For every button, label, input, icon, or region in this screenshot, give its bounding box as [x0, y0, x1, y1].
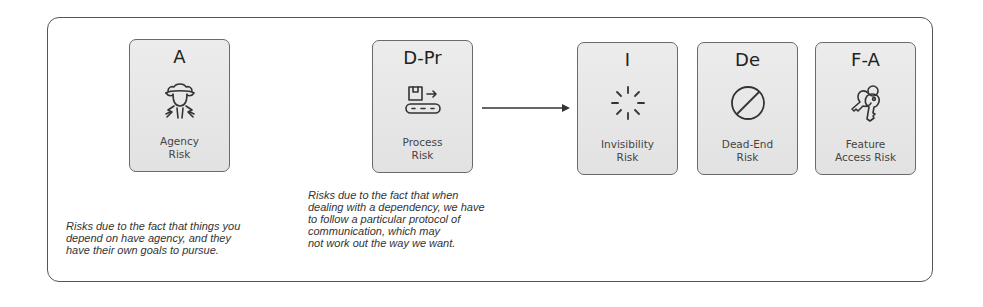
card-label: Process Risk — [373, 136, 472, 162]
conveyor-belt-icon — [399, 77, 447, 125]
prohibited-icon — [724, 79, 772, 127]
card-abbr: F-A — [816, 49, 915, 70]
card-invisibility-risk: I Invisibility Risk — [577, 42, 678, 175]
arrow-connector-icon — [482, 101, 572, 115]
card-abbr: A — [130, 46, 229, 67]
keys-icon — [842, 79, 890, 127]
process-risk-description: Risks due to the fact that when dealing … — [308, 189, 485, 249]
card-feature-access-risk: F-A Feature Access Risk — [815, 42, 916, 175]
card-abbr: De — [698, 49, 797, 70]
card-abbr: I — [578, 49, 677, 70]
card-abbr: D-Pr — [373, 47, 472, 68]
card-label: Invisibility Risk — [578, 138, 677, 164]
card-agency-risk: A Agency Risk — [129, 39, 230, 172]
spy-person-icon — [156, 76, 204, 124]
card-process-risk: D-Pr Process Risk — [372, 40, 473, 173]
card-dead-end-risk: De Dead-End Risk — [697, 42, 798, 175]
card-label: Agency Risk — [130, 135, 229, 161]
card-label: Feature Access Risk — [816, 138, 915, 164]
card-label: Dead-End Risk — [698, 138, 797, 164]
sparkle-burst-icon — [604, 79, 652, 127]
agency-risk-description: Risks due to the fact that things you de… — [66, 220, 240, 256]
